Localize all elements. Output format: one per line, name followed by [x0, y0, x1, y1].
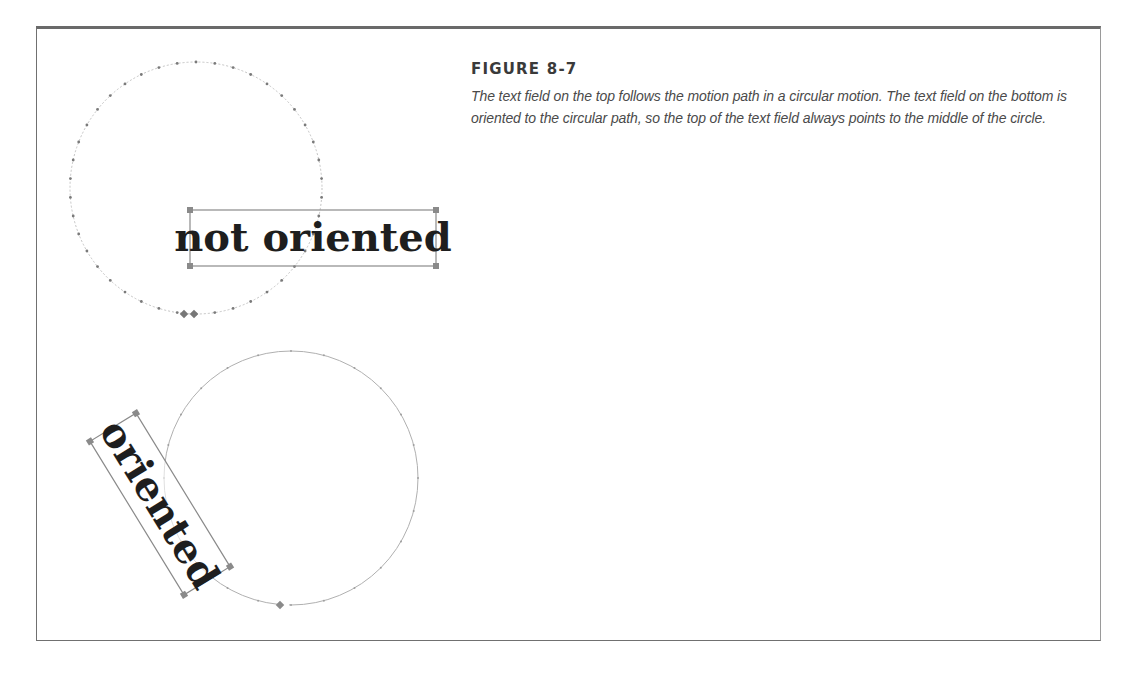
text-field-not-oriented[interactable]: not oriented [174, 207, 452, 269]
figure-number: FIGURE 8-7 [471, 58, 1091, 80]
keyframe-marker-icon[interactable] [276, 601, 284, 609]
figure-caption: FIGURE 8-7 The text field on the top fol… [471, 58, 1091, 129]
selection-handle-icon[interactable] [187, 263, 193, 269]
oriented-label: oriented [91, 411, 230, 597]
not-oriented-label: not oriented [174, 213, 452, 260]
selection-handle-icon[interactable] [187, 207, 193, 213]
selection-handle-icon[interactable] [433, 263, 439, 269]
top-motion-path [69, 61, 323, 319]
keyframe-marker-icon[interactable] [190, 310, 198, 318]
selection-handle-icon[interactable] [433, 207, 439, 213]
keyframe-marker-icon[interactable] [180, 310, 188, 318]
figure-caption-text: The text field on the top follows the mo… [471, 85, 1091, 129]
text-field-oriented[interactable]: oriented [85, 408, 235, 601]
